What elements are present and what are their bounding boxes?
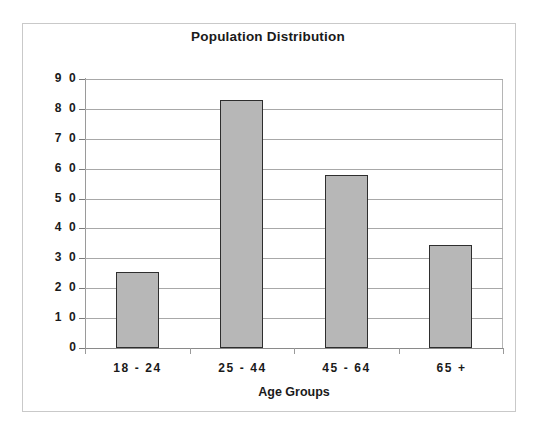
y-axis-tick-label: 0 <box>48 340 78 354</box>
y-axis-tick-label: 9 0 <box>48 71 78 85</box>
y-axis-tick <box>79 169 85 170</box>
chart-title: Population Distribution <box>0 29 536 44</box>
x-axis-tick-label: 25 - 44 <box>190 361 295 375</box>
y-axis-tick <box>79 228 85 229</box>
y-axis-tick-label: 3 0 <box>48 250 78 264</box>
x-axis-tick-label: 18 - 24 <box>85 361 190 375</box>
x-axis-tick <box>503 348 504 354</box>
y-axis-tick-label: 1 0 <box>48 310 78 324</box>
y-axis-tick-label: 7 0 <box>48 131 78 145</box>
bar <box>220 100 263 348</box>
gridline <box>85 169 503 170</box>
x-axis-tick-label: 45 - 64 <box>294 361 399 375</box>
y-axis-tick <box>79 288 85 289</box>
y-axis-tick-label: 5 0 <box>48 191 78 205</box>
bar <box>116 272 159 348</box>
gridline <box>85 228 503 229</box>
y-axis-tick-label: 2 0 <box>48 280 78 294</box>
x-axis-tick <box>190 348 191 354</box>
gridline <box>85 139 503 140</box>
gridline <box>85 199 503 200</box>
y-axis-tick-labels: 9 08 07 06 05 04 03 02 01 00 <box>42 0 78 431</box>
y-axis-tick <box>79 318 85 319</box>
x-axis-tick <box>294 348 295 354</box>
gridline <box>85 79 503 80</box>
y-axis-tick-label: 6 0 <box>48 161 78 175</box>
x-axis-tick-label: 65 + <box>399 361 504 375</box>
y-axis-tick <box>79 199 85 200</box>
y-axis-tick <box>79 109 85 110</box>
x-axis-tick <box>85 348 86 354</box>
y-axis-tick <box>79 79 85 80</box>
chart-canvas: Population Distribution Millions of Peop… <box>0 0 536 431</box>
y-axis-tick-label: 4 0 <box>48 220 78 234</box>
plot-area <box>85 79 503 348</box>
bar <box>429 245 472 348</box>
x-axis-tick <box>399 348 400 354</box>
x-axis-title: Age Groups <box>85 385 503 399</box>
y-axis-tick <box>79 258 85 259</box>
gridline <box>85 109 503 110</box>
bar <box>325 175 368 348</box>
y-axis-tick-label: 8 0 <box>48 101 78 115</box>
y-axis-tick <box>79 139 85 140</box>
